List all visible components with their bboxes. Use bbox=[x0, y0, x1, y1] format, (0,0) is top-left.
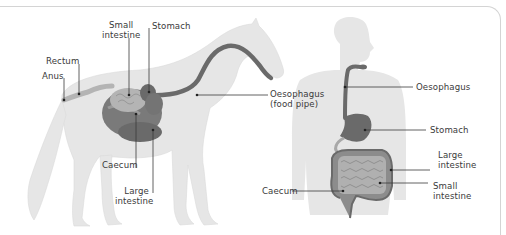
label-horse-caecum: Caecum bbox=[102, 160, 138, 170]
label-horse-stomach: Stomach bbox=[152, 21, 191, 31]
label-line: Small bbox=[433, 181, 471, 191]
label-human-large-intestine: Large intestine bbox=[438, 150, 476, 170]
diagram-artwork bbox=[0, 0, 506, 235]
label-line: intestine bbox=[115, 196, 149, 206]
label-horse-anus: Anus bbox=[42, 71, 64, 81]
label-line: intestine bbox=[433, 191, 471, 201]
label-line: Oesophagus bbox=[270, 89, 324, 99]
label-line: intestine bbox=[438, 160, 476, 170]
label-horse-small-intestine: Small intestine bbox=[102, 20, 140, 40]
label-human-oesophagus: Oesophagus bbox=[416, 82, 470, 92]
label-line: intestine bbox=[102, 30, 140, 40]
label-line: Large bbox=[115, 186, 149, 196]
label-line: Small bbox=[102, 20, 140, 30]
label-human-caecum: Caecum bbox=[262, 186, 298, 196]
label-human-small-intestine: Small intestine bbox=[433, 181, 471, 201]
label-horse-oesophagus: Oesophagus (food pipe) bbox=[270, 89, 324, 109]
label-human-stomach: Stomach bbox=[430, 125, 469, 135]
label-line: (food pipe) bbox=[270, 99, 324, 109]
human-small-intestine bbox=[338, 156, 386, 194]
label-horse-rectum: Rectum bbox=[46, 56, 79, 66]
label-line: Large bbox=[438, 150, 476, 160]
label-horse-large-intestine: Large intestine bbox=[115, 186, 149, 206]
